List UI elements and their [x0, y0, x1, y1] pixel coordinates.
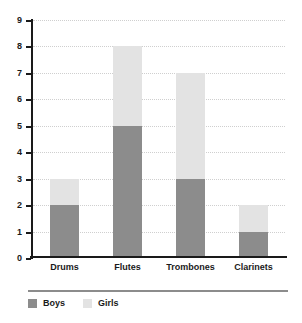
bar-segment-boys[interactable]	[113, 126, 142, 258]
y-axis-tick-label: 8	[0, 42, 22, 51]
legend-swatch-girls	[83, 299, 92, 308]
y-axis-tick-label: 7	[0, 69, 22, 78]
y-axis-tick	[26, 258, 31, 260]
gridline	[33, 73, 285, 74]
y-axis-tick	[26, 205, 31, 207]
y-axis-tick-label: 5	[0, 122, 22, 131]
y-axis-tick-label: 0	[0, 254, 22, 263]
legend-separator	[28, 290, 288, 292]
y-axis-tick	[26, 46, 31, 48]
legend-item-boys[interactable]: Boys	[28, 299, 65, 308]
gridline	[33, 20, 285, 21]
y-axis-tick-label: 6	[0, 95, 22, 104]
bar-segment-boys[interactable]	[50, 205, 79, 258]
y-axis-tick	[26, 99, 31, 101]
plot-area	[33, 20, 285, 258]
bar-segment-girls[interactable]	[113, 46, 142, 125]
legend-item-girls[interactable]: Girls	[83, 299, 119, 308]
bar-segment-girls[interactable]	[239, 205, 268, 231]
bar-segment-boys[interactable]	[176, 179, 205, 258]
legend-label-girls: Girls	[98, 299, 119, 308]
bar-drums[interactable]	[50, 179, 79, 258]
bar-clarinets[interactable]	[239, 205, 268, 258]
y-axis-tick-label: 9	[0, 16, 22, 25]
y-axis-line	[31, 19, 33, 259]
bar-segment-girls[interactable]	[176, 73, 205, 179]
x-axis-label-clarinets: Clarinets	[214, 262, 294, 273]
stacked-bar-chart: 0123456789 DrumsFlutesTrombonesClarinets…	[0, 0, 302, 323]
y-axis-tick	[26, 20, 31, 22]
y-axis-tick-label: 1	[0, 228, 22, 237]
gridline	[33, 46, 285, 47]
x-axis-line	[30, 256, 287, 258]
gridline	[33, 152, 285, 153]
y-axis-tick	[26, 73, 31, 75]
bar-segment-girls[interactable]	[50, 179, 79, 205]
bar-trombones[interactable]	[176, 73, 205, 258]
y-axis-tick-label: 4	[0, 148, 22, 157]
y-axis-tick-label: 2	[0, 201, 22, 210]
gridline	[33, 99, 285, 100]
y-axis-tick	[26, 152, 31, 154]
y-axis-tick	[26, 232, 31, 234]
bar-segment-boys[interactable]	[239, 232, 268, 258]
legend-swatch-boys	[28, 299, 37, 308]
y-axis-tick-label: 3	[0, 175, 22, 184]
bar-flutes[interactable]	[113, 46, 142, 258]
chart-legend: BoysGirls	[28, 299, 119, 308]
y-axis-tick	[26, 179, 31, 181]
y-axis-tick	[26, 126, 31, 128]
legend-label-boys: Boys	[43, 299, 65, 308]
gridline	[33, 126, 285, 127]
